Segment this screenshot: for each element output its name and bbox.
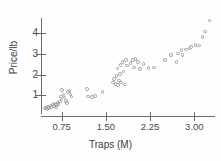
data-point [152, 66, 156, 70]
data-point [136, 60, 140, 64]
data-point [70, 95, 74, 99]
data-point [122, 70, 126, 74]
data-point [124, 58, 128, 62]
data-point [112, 77, 116, 81]
data-point [142, 62, 146, 66]
data-point [197, 44, 201, 48]
data-point [65, 101, 69, 105]
data-point [147, 66, 151, 70]
data-point [60, 88, 64, 92]
data-point [138, 67, 142, 71]
data-point [116, 67, 120, 71]
data-point-layer [0, 0, 221, 161]
data-point [123, 83, 127, 87]
data-point [189, 45, 193, 49]
data-point [132, 66, 136, 70]
data-point [180, 48, 184, 52]
data-point [85, 87, 89, 91]
data-point [169, 53, 173, 57]
data-point [101, 90, 105, 94]
data-point [208, 19, 212, 23]
data-point [203, 30, 207, 34]
data-point [163, 58, 167, 62]
scatter-plot-figure: 1234 0.751.502.253.00 Price/lb Traps (M) [0, 0, 221, 161]
data-point [201, 35, 205, 39]
data-point [181, 53, 185, 57]
data-point [175, 60, 179, 64]
data-point [93, 94, 97, 98]
data-point [118, 72, 122, 76]
data-point [176, 52, 180, 56]
